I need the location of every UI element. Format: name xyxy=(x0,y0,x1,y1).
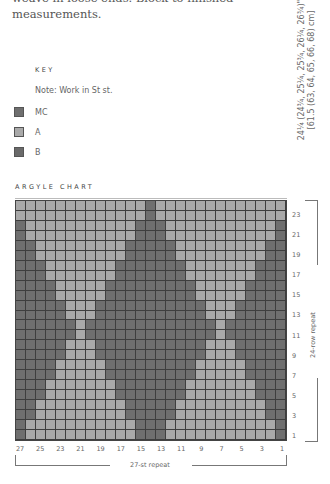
chart-cell xyxy=(236,301,246,311)
chart-cell xyxy=(16,360,26,370)
chart-cell xyxy=(216,380,226,390)
chart-cell xyxy=(266,291,276,301)
chart-cell xyxy=(226,350,236,360)
chart-cell xyxy=(136,420,146,430)
chart-cell xyxy=(186,261,196,271)
chart-cell xyxy=(236,410,246,420)
chart-cell xyxy=(106,311,116,321)
chart-cell xyxy=(126,420,136,430)
chart-cell xyxy=(46,370,56,380)
chart-cell xyxy=(86,400,96,410)
chart-cell xyxy=(66,320,76,330)
chart-cell xyxy=(86,241,96,251)
chart-cell xyxy=(106,231,116,241)
chart-cell xyxy=(266,281,276,291)
chart-cell xyxy=(206,420,216,430)
chart-cell xyxy=(136,281,146,291)
chart-cell xyxy=(226,251,236,261)
chart-cell xyxy=(56,201,66,211)
chart-cell xyxy=(116,241,126,251)
chart-cell xyxy=(106,350,116,360)
chart-cell xyxy=(166,281,176,291)
chart-cell xyxy=(196,281,206,291)
stitch-repeat-label: 27-st repeat xyxy=(130,461,170,469)
chart-cell xyxy=(156,261,166,271)
chart-cell xyxy=(56,211,66,221)
chart-cell xyxy=(276,241,286,251)
chart-cell xyxy=(236,211,246,221)
chart-cell xyxy=(216,390,226,400)
chart-cell xyxy=(206,360,216,370)
chart-cell xyxy=(256,400,266,410)
chart-cell xyxy=(126,311,136,321)
chart-cell xyxy=(156,370,166,380)
chart-cell xyxy=(36,251,46,261)
chart-cell xyxy=(226,330,236,340)
row-number: 3 xyxy=(292,412,296,420)
chart-cell xyxy=(106,410,116,420)
chart-cell xyxy=(276,330,286,340)
chart-cell xyxy=(256,340,266,350)
chart-cell xyxy=(206,400,216,410)
row-number: 7 xyxy=(292,372,296,380)
chart-cell xyxy=(36,271,46,281)
chart-cell xyxy=(166,311,176,321)
chart-cell xyxy=(66,360,76,370)
chart-cell xyxy=(196,291,206,301)
chart-cell xyxy=(126,330,136,340)
chart-cell xyxy=(236,241,246,251)
chart-cell xyxy=(266,251,276,261)
chart-cell xyxy=(276,271,286,281)
chart-cell xyxy=(16,221,26,231)
row-bracket-top xyxy=(305,200,317,201)
chart-cell xyxy=(26,311,36,321)
chart-cell xyxy=(136,410,146,420)
b-swatch xyxy=(14,147,24,157)
chart-cell xyxy=(196,201,206,211)
chart-cell xyxy=(86,211,96,221)
chart-cell xyxy=(86,281,96,291)
chart-cell xyxy=(66,241,76,251)
chart-cell xyxy=(196,340,206,350)
chart-cell xyxy=(56,420,66,430)
intro-line-2: measurements. xyxy=(12,6,292,22)
chart-cell xyxy=(246,360,256,370)
chart-cell xyxy=(96,311,106,321)
chart-cell xyxy=(156,380,166,390)
chart-cell xyxy=(126,360,136,370)
chart-cell xyxy=(206,370,216,380)
chart-cell xyxy=(36,231,46,241)
chart-cell xyxy=(116,320,126,330)
chart-cell xyxy=(236,281,246,291)
chart-cell xyxy=(46,251,56,261)
chart-cell xyxy=(226,410,236,420)
chart-cell xyxy=(196,400,206,410)
chart-cell xyxy=(216,360,226,370)
chart-cell xyxy=(46,231,56,241)
chart-cell xyxy=(76,301,86,311)
chart-cell xyxy=(156,320,166,330)
chart-cell xyxy=(256,311,266,321)
chart-cell xyxy=(156,231,166,241)
chart-cell xyxy=(256,320,266,330)
chart-cell xyxy=(176,211,186,221)
chart-cell xyxy=(86,420,96,430)
key-item-b: B xyxy=(14,146,24,158)
chart-cell xyxy=(106,251,116,261)
chart-cell xyxy=(76,211,86,221)
chart-cell xyxy=(166,420,176,430)
chart-cell xyxy=(16,420,26,430)
chart-cell xyxy=(56,271,66,281)
chart-cell xyxy=(146,330,156,340)
chart-cell xyxy=(56,390,66,400)
chart-cell xyxy=(56,340,66,350)
chart-cell xyxy=(146,231,156,241)
chart-cell xyxy=(166,360,176,370)
chart-cell xyxy=(136,261,146,271)
chart-cell xyxy=(136,360,146,370)
chart-cell xyxy=(86,311,96,321)
chart-cell xyxy=(166,320,176,330)
chart-cell xyxy=(76,201,86,211)
chart-cell xyxy=(66,291,76,301)
chart-cell xyxy=(46,201,56,211)
